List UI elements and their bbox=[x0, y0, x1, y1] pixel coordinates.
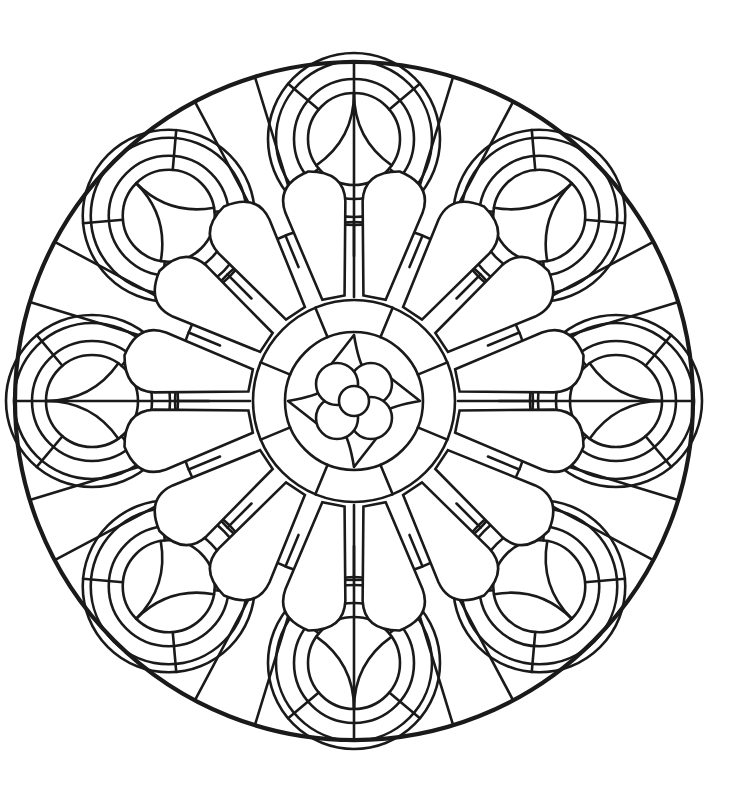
center-medallion bbox=[253, 300, 455, 502]
flower-center-circle bbox=[339, 386, 369, 416]
rose-window-drawing bbox=[0, 0, 739, 803]
